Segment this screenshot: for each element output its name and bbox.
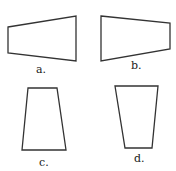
- trapezoid-d: [115, 86, 158, 148]
- label-b: b.: [131, 60, 142, 71]
- label-c: c.: [39, 157, 49, 168]
- trapezoid-a: [8, 16, 76, 61]
- label-d: d.: [134, 153, 145, 164]
- label-a: a.: [36, 64, 46, 75]
- trapezoid-figure: [0, 0, 176, 171]
- trapezoid-c: [22, 88, 66, 150]
- trapezoid-b: [101, 16, 170, 61]
